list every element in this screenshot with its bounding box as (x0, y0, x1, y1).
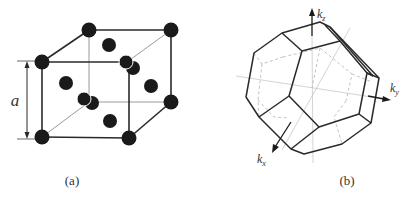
kz-axis-arrow (309, 8, 315, 36)
dimension-arrow-a (17, 61, 38, 139)
ky-label: ky (390, 81, 399, 97)
figure-canvas: a (a) (0, 0, 410, 198)
dimension-label-a: a (11, 91, 20, 110)
atom-corner (77, 92, 91, 106)
atom-corner (122, 131, 137, 146)
atom-corner (164, 95, 179, 110)
caption-b: (b) (339, 173, 354, 188)
kx-axis-arrow (272, 122, 291, 153)
ky-axis-arrow (368, 96, 391, 102)
atom-face-center-top (102, 38, 116, 52)
kz-label: kz (317, 7, 326, 23)
axis-guides (236, 28, 372, 163)
atom-face-center-left (59, 76, 73, 90)
atom-face-center-right (144, 79, 158, 93)
atom-face-center-bottom (103, 114, 117, 128)
atom-corner (119, 55, 133, 69)
panel-b-brillouin-zone: kz ky kx (b) (236, 7, 399, 188)
atom-corner (35, 55, 50, 70)
atom-corner (35, 130, 50, 145)
caption-a: (a) (65, 173, 79, 188)
panel-a-fcc-cell: a (a) (11, 23, 179, 189)
atom-corner (164, 23, 179, 38)
atom-corner (82, 23, 97, 38)
kx-label: kx (257, 152, 266, 168)
